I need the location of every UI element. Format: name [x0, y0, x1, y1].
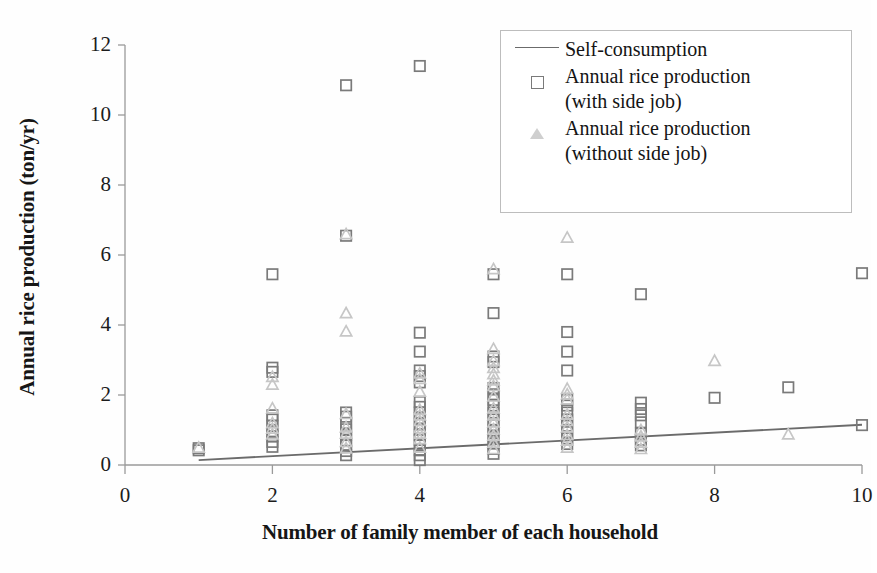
legend-item-self-consumption[interactable]: Self-consumption [509, 37, 843, 62]
legend-item-with-side-job[interactable]: Annual rice production (with side job) [509, 64, 843, 114]
series-without-side-job [193, 228, 794, 453]
chart-legend: Self-consumption Annual rice production … [500, 30, 852, 213]
series-self-consumption [199, 425, 862, 460]
legend-label-self-consumption: Self-consumption [565, 37, 707, 62]
legend-label-without-side-job: Annual rice production (without side job… [565, 116, 751, 166]
legend-item-without-side-job[interactable]: Annual rice production (without side job… [509, 116, 843, 166]
legend-triangle-icon [509, 116, 565, 139]
legend-label-with-side-job: Annual rice production (with side job) [565, 64, 751, 114]
legend-square-icon [509, 64, 565, 89]
legend-line-icon [509, 37, 565, 48]
